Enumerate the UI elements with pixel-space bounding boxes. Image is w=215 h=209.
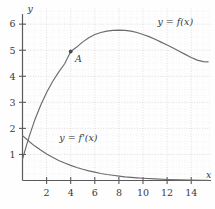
x-tick-label: 10	[137, 187, 149, 198]
grid-lines	[23, 9, 211, 181]
y-tick-label: 3	[9, 97, 15, 108]
axes	[23, 14, 212, 181]
y-axis-name: y	[27, 3, 34, 14]
point-label-a: A	[74, 53, 82, 64]
curve-label-f: y = f(x)	[156, 16, 193, 27]
data-curves	[23, 30, 209, 180]
x-axis-name: x	[206, 169, 212, 180]
point-marker-a	[69, 50, 73, 54]
y-tick-label: 6	[9, 18, 15, 29]
curve-label-f-prime: y = f'(x)	[58, 132, 98, 143]
x-tick-label: 8	[116, 187, 122, 198]
x-tick-label: 12	[161, 187, 173, 198]
axis-names: yx	[27, 3, 213, 180]
x-tick-label: 2	[44, 187, 50, 198]
curve-labels: y = f(x)y = f'(x)	[58, 16, 193, 142]
annotations: A	[69, 50, 82, 65]
curve-f	[23, 30, 209, 159]
x-tick-label: 6	[92, 187, 98, 198]
y-tick-label: 4	[9, 71, 15, 82]
chart-canvas: 2468101214123456y = f(x)y = f'(x)Ayx	[0, 0, 215, 209]
tick-marks: 2468101214123456	[9, 18, 197, 197]
y-tick-label: 1	[9, 149, 15, 160]
x-tick-label: 4	[68, 187, 74, 198]
x-tick-label: 14	[185, 187, 197, 198]
y-tick-label: 2	[9, 123, 15, 134]
curve-f-prime	[23, 136, 209, 181]
y-tick-label: 5	[9, 45, 15, 56]
figure-container: 2468101214123456y = f(x)y = f'(x)Ayx	[0, 0, 215, 209]
